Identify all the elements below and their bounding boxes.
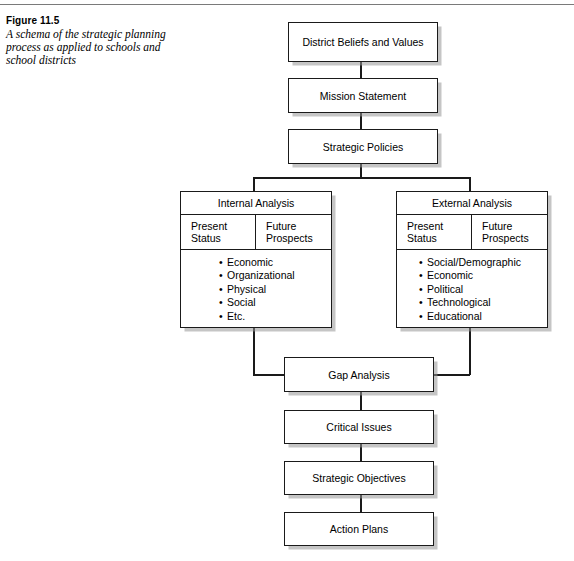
node-gap-analysis[interactable]: Gap Analysis bbox=[284, 357, 434, 392]
bullet-icon: • bbox=[219, 283, 227, 296]
node-label: Strategic Policies bbox=[323, 141, 404, 153]
bullet-icon: • bbox=[419, 310, 427, 323]
external-analysis-future-prospects[interactable]: Future Prospects bbox=[472, 215, 547, 249]
list-item: •Etc. bbox=[219, 310, 245, 323]
external-analysis-present-status[interactable]: Present Status bbox=[397, 215, 472, 249]
column-label: Future Prospects bbox=[266, 220, 331, 245]
bullet-icon: • bbox=[419, 296, 427, 309]
figure-number: Figure 11.5 bbox=[6, 15, 166, 27]
external-analysis-item-list: •Social/Demographic •Economic •Political… bbox=[397, 250, 547, 327]
figure-description: A schema of the strategic planning proce… bbox=[6, 28, 166, 68]
list-item-label: Economic bbox=[427, 269, 473, 281]
list-item-label: Educational bbox=[427, 310, 482, 322]
node-internal-analysis[interactable]: Internal Analysis Present Status Future … bbox=[180, 191, 332, 328]
node-label: District Beliefs and Values bbox=[302, 36, 423, 48]
bullet-icon: • bbox=[419, 256, 427, 269]
connector-mission-to-policies bbox=[360, 113, 362, 129]
external-analysis-title: External Analysis bbox=[397, 192, 547, 215]
internal-analysis-columns: Present Status Future Prospects bbox=[181, 215, 331, 250]
node-action-plans[interactable]: Action Plans bbox=[284, 512, 434, 546]
list-item-label: Social bbox=[227, 296, 256, 308]
bullet-icon: • bbox=[419, 283, 427, 296]
connector-external-down bbox=[469, 328, 471, 375]
internal-analysis-item-list: •Economic •Organizational •Physical •Soc… bbox=[181, 250, 331, 327]
connector-beliefs-to-mission bbox=[360, 62, 362, 78]
node-external-analysis[interactable]: External Analysis Present Status Future … bbox=[396, 191, 548, 328]
list-item-label: Social/Demographic bbox=[427, 256, 521, 268]
connector-internal-down bbox=[253, 328, 255, 375]
figure-caption: Figure 11.5 A schema of the strategic pl… bbox=[6, 15, 166, 68]
list-item-label: Economic bbox=[227, 256, 273, 268]
node-strategic-policies[interactable]: Strategic Policies bbox=[288, 129, 438, 164]
connector-objectives-to-actions bbox=[360, 495, 362, 512]
list-item-label: Etc. bbox=[227, 310, 245, 322]
external-analysis-columns: Present Status Future Prospects bbox=[397, 215, 547, 250]
connector-bus-to-external bbox=[469, 177, 471, 191]
list-item: •Social bbox=[219, 296, 256, 309]
list-item-label: Physical bbox=[227, 283, 266, 295]
list-item-label: Political bbox=[427, 283, 463, 295]
node-label: Gap Analysis bbox=[328, 369, 389, 381]
column-label: Present Status bbox=[407, 220, 471, 245]
connector-internal-to-gap bbox=[253, 374, 286, 376]
node-critical-issues[interactable]: Critical Issues bbox=[284, 410, 434, 444]
bullet-icon: • bbox=[419, 269, 427, 282]
list-item: •Educational bbox=[419, 310, 482, 323]
list-item: •Social/Demographic bbox=[419, 256, 521, 269]
connector-policies-stem bbox=[360, 164, 362, 178]
connector-gap-to-critical bbox=[360, 392, 362, 410]
internal-analysis-title: Internal Analysis bbox=[181, 192, 331, 215]
bullet-icon: • bbox=[219, 269, 227, 282]
list-item-label: Technological bbox=[427, 296, 491, 308]
node-label: Strategic Objectives bbox=[312, 472, 405, 484]
connector-external-to-gap bbox=[434, 374, 470, 376]
list-item: •Economic bbox=[219, 256, 273, 269]
list-item: •Organizational bbox=[219, 269, 295, 282]
bullet-icon: • bbox=[219, 296, 227, 309]
node-mission-statement[interactable]: Mission Statement bbox=[288, 78, 438, 113]
node-strategic-objectives[interactable]: Strategic Objectives bbox=[284, 461, 434, 495]
list-item-label: Organizational bbox=[227, 269, 295, 281]
connector-branch-bus bbox=[253, 177, 471, 179]
internal-analysis-present-status[interactable]: Present Status bbox=[181, 215, 256, 249]
column-label: Future Prospects bbox=[482, 220, 547, 245]
connector-critical-to-objectives bbox=[360, 444, 362, 461]
page-top-rule bbox=[0, 4, 574, 5]
node-district-beliefs-and-values[interactable]: District Beliefs and Values bbox=[288, 22, 438, 62]
internal-analysis-future-prospects[interactable]: Future Prospects bbox=[256, 215, 331, 249]
node-label: Mission Statement bbox=[320, 90, 406, 102]
bullet-icon: • bbox=[219, 256, 227, 269]
list-item: •Technological bbox=[419, 296, 491, 309]
list-item: •Physical bbox=[219, 283, 266, 296]
list-item: •Political bbox=[419, 283, 463, 296]
list-item: •Economic bbox=[419, 269, 473, 282]
bullet-icon: • bbox=[219, 310, 227, 323]
node-label: Action Plans bbox=[330, 523, 388, 535]
node-label: Critical Issues bbox=[326, 421, 391, 433]
column-label: Present Status bbox=[191, 220, 255, 245]
connector-bus-to-internal bbox=[253, 177, 255, 191]
